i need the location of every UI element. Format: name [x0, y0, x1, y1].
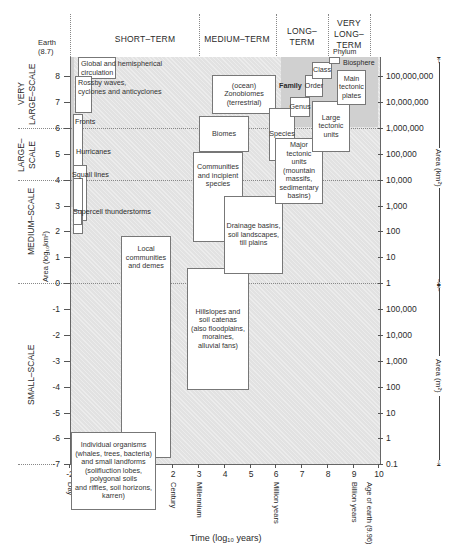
period-short-term: SHORT–TERM	[95, 34, 195, 45]
m2-tick: 1	[386, 433, 391, 443]
m2-tick: 1,000	[386, 356, 407, 366]
y-tick: -7	[36, 459, 60, 469]
x-tick: 9	[346, 469, 362, 479]
bracket-top-icon: ⤒	[434, 57, 444, 65]
y-tick: 8	[36, 71, 60, 81]
km2-tick: 1,000,000	[386, 123, 424, 133]
box-local-communities: Local communities and demes	[121, 236, 171, 458]
x-label-millennium: Millennium	[195, 482, 204, 518]
scale-large: LARGE– SCALE	[16, 132, 38, 178]
km2-tick: 10,000,000	[386, 97, 429, 107]
y-tick: 2	[36, 226, 60, 236]
y-tick: 6	[36, 123, 60, 133]
x-tick: 6	[268, 469, 284, 479]
m2-axis-label: Area (m²)	[433, 356, 444, 396]
scale-very-large: VERY LARGE–SCALE	[16, 62, 38, 126]
km2-tick: 100,000	[386, 149, 417, 159]
m2-tick: 0.1	[386, 459, 398, 469]
x-tick: 3	[191, 469, 207, 479]
box-class: Class	[312, 62, 332, 79]
y-tick: 3	[36, 201, 60, 211]
x-label-age-of-earth: Age of earth (9.96)	[365, 482, 374, 545]
label-hurricanes: Hurricanes	[76, 147, 111, 156]
m2-tick: 100,000	[386, 304, 417, 314]
bracket-bottom-icon: ⤓	[434, 459, 444, 467]
km2-axis-label: Area (km²)	[433, 148, 444, 188]
label-squall-lines: Squall lines	[72, 170, 109, 179]
box-zonobiomes: (ocean) Zonobiomes (terrestrial)	[212, 75, 276, 114]
label-family: Family	[279, 81, 302, 90]
period-medium-term: MEDIUM–TERM	[198, 34, 276, 45]
box-hillslopes: Hillslopes and soil catenas (also floodp…	[187, 268, 249, 390]
m2-tick: 100	[386, 382, 400, 392]
x-label-million-years: Million years	[272, 482, 281, 524]
x-tick: 8	[320, 469, 336, 479]
box-individual-organisms: Individual organisms (whales, trees, bac…	[71, 432, 156, 510]
km2-tick: 10,000	[386, 175, 412, 185]
x-label-billion-years: Billion years	[350, 482, 359, 522]
scale-medium: MEDIUM–SCALE	[26, 186, 37, 256]
x-label-century: Century	[169, 482, 178, 508]
box-drainage-basins: Drainage basins, soil landscapes, till p…	[224, 196, 283, 274]
box-biomes: Biomes	[199, 116, 249, 152]
box-large-tectonic: Large tectonic units	[312, 101, 350, 152]
km2-tick: 1,000	[386, 201, 407, 211]
period-long-term: LONG– TERM	[278, 26, 326, 48]
km2-tick: 100	[386, 226, 400, 236]
km2-tick: 10	[386, 252, 395, 262]
y-tick: -2	[36, 330, 60, 340]
x-tick: 5	[243, 469, 259, 479]
x-tick: 2	[165, 469, 181, 479]
label-phylum: Phylum	[333, 48, 356, 55]
scale-small: SMALL–SCALE	[26, 340, 37, 410]
x-axis-label: Time (log₁₀ years)	[190, 533, 261, 543]
m2-tick: 10	[386, 408, 395, 418]
y-tick: -5	[36, 408, 60, 418]
y-tick: 5	[36, 149, 60, 159]
km2-tick: 1	[386, 278, 391, 288]
x-tick: 4	[217, 469, 233, 479]
box-squall-bar	[73, 178, 83, 234]
period-very-long-term: VERY LONG– TERM	[328, 18, 370, 51]
box-genus: Genus	[290, 97, 310, 117]
y-tick: 0	[36, 278, 60, 288]
y-tick: 1	[36, 252, 60, 262]
y-tick: 4	[36, 175, 60, 185]
bracket-mid2-icon: ⤒	[434, 285, 444, 293]
box-rossby-waves: Rossby waves, cyclones and anticyclones	[75, 76, 92, 113]
km2-tick: 100,000,000	[386, 71, 433, 81]
y-tick: -1	[36, 304, 60, 314]
x-tick: 10	[371, 469, 387, 479]
label-supercell: Supercell thunderstorms	[73, 207, 151, 216]
box-phylum-marker	[329, 57, 340, 64]
y-tick: -3	[36, 356, 60, 366]
period-divider	[70, 14, 71, 57]
label-biosphere: Biosphere	[343, 59, 375, 66]
y-tick: 7	[36, 97, 60, 107]
x-tick: 7	[294, 469, 310, 479]
label-fronts: Fronts	[75, 117, 95, 126]
box-main-plates: Main tectonic plates	[337, 70, 366, 105]
y-tick: -6	[36, 433, 60, 443]
y-tick: -4	[36, 382, 60, 392]
m2-tick: 10,000	[386, 330, 412, 340]
earth-marker: Earth (8.7)	[38, 38, 56, 56]
